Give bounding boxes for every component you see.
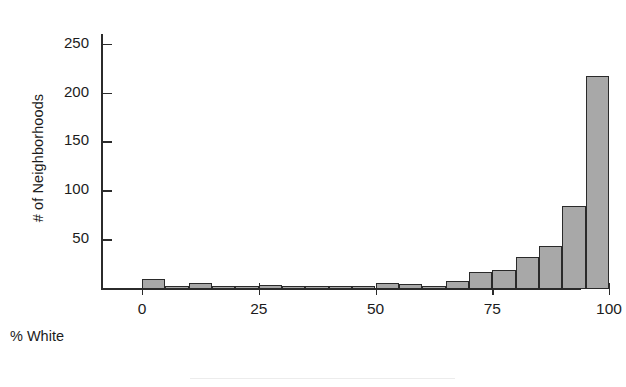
histogram-bar xyxy=(259,285,282,289)
histogram-bar xyxy=(376,283,399,289)
x-tick-label: 50 xyxy=(346,300,406,318)
histogram-bar xyxy=(329,286,352,289)
histogram-bar xyxy=(562,206,585,289)
histogram-bar xyxy=(305,286,328,289)
y-tick-label: 200 xyxy=(31,83,89,100)
histogram-bar xyxy=(142,279,165,289)
histogram-bar xyxy=(586,76,609,289)
x-axis-label: % White xyxy=(10,328,64,344)
x-tick-label: 100 xyxy=(579,300,626,318)
histogram-bar xyxy=(165,286,188,289)
x-axis-label-wrap: % White xyxy=(0,328,618,344)
histogram-bar xyxy=(469,272,492,289)
x-tick xyxy=(609,283,610,295)
histogram-bar xyxy=(516,257,539,289)
histogram-bar xyxy=(422,286,445,289)
histogram-bar xyxy=(399,284,422,289)
plot-area: 50100150200250 0255075100 xyxy=(101,28,581,288)
y-tick-label: 50 xyxy=(31,229,89,246)
histogram-bar xyxy=(212,286,235,289)
y-tick-label: 100 xyxy=(31,180,89,197)
x-tick-label: 25 xyxy=(229,300,289,318)
histogram-bar xyxy=(352,286,375,289)
histogram-bar xyxy=(282,286,305,289)
histogram-bar xyxy=(235,286,258,289)
bar-group xyxy=(101,28,581,289)
histogram-bar xyxy=(539,246,562,289)
y-tick-label: 150 xyxy=(31,131,89,148)
x-tick-label: 0 xyxy=(112,300,172,318)
histogram-bar xyxy=(189,283,212,289)
histogram-bar xyxy=(446,281,469,289)
y-tick-label: 250 xyxy=(31,34,89,51)
histogram-bar xyxy=(492,270,515,289)
scan-artifact-line xyxy=(190,378,455,379)
x-tick-label: 75 xyxy=(462,300,522,318)
